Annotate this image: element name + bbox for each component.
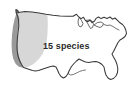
us-species-range-map: 15 species xyxy=(0,0,133,102)
great-lakes-outline xyxy=(78,18,83,28)
northwest-coast-notch xyxy=(16,10,19,14)
northeast-coast-detail xyxy=(104,25,119,31)
lake-erie-ontario-outline xyxy=(94,22,104,28)
gulf-coast-detail xyxy=(68,70,86,75)
species-count-label: 15 species xyxy=(43,41,90,52)
